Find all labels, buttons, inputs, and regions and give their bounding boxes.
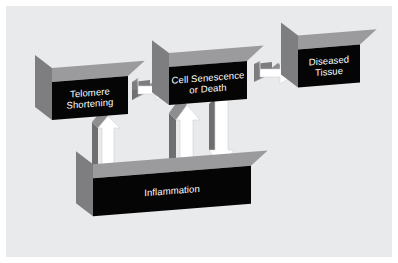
diagram-canvas: Telomere Shortening Cell Senescence or D… bbox=[0, 0, 398, 263]
node-inflammation[interactable]: Inflammation bbox=[93, 166, 251, 216]
box-side-face bbox=[76, 151, 93, 216]
diagram-panel: Telomere Shortening Cell Senescence or D… bbox=[6, 6, 392, 257]
node-diseased-tissue[interactable]: Diseased Tissue bbox=[298, 45, 360, 88]
box-front-face bbox=[298, 45, 360, 88]
box-front-face bbox=[169, 61, 247, 105]
box-front-face bbox=[52, 76, 128, 120]
node-telomere-shortening[interactable]: Telomere Shortening bbox=[52, 76, 128, 120]
box-side-face bbox=[35, 55, 52, 120]
node-cell-senescence-or-death[interactable]: Cell Senescence or Death bbox=[169, 61, 247, 105]
